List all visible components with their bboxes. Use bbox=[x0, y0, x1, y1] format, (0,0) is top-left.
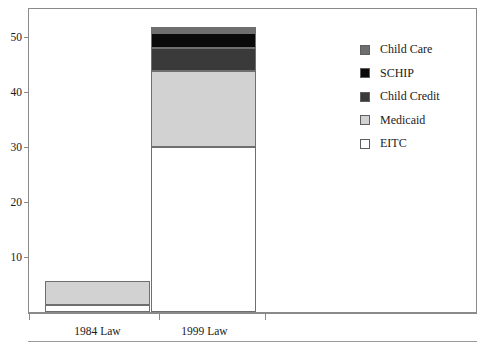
y-axis-tick-mark bbox=[24, 202, 29, 203]
y-axis-tick-mark bbox=[24, 257, 29, 258]
chart-figure: 1020304050 1984 Law1999 Law Child CareSC… bbox=[0, 0, 486, 348]
legend-item[interactable]: EITC bbox=[360, 132, 440, 156]
bar-segment[interactable] bbox=[45, 305, 150, 312]
stacked-bar[interactable] bbox=[45, 281, 150, 312]
legend-swatch-icon bbox=[360, 115, 370, 125]
y-axis-tick-mark bbox=[24, 37, 29, 38]
y-axis-tick-label: 10 bbox=[11, 251, 23, 263]
legend-item[interactable]: Child Credit bbox=[360, 85, 440, 109]
legend-item-label: SCHIP bbox=[380, 66, 414, 81]
y-axis-tick-label: 30 bbox=[11, 141, 23, 153]
x-axis-line bbox=[28, 312, 477, 313]
y-axis-tick-mark bbox=[24, 92, 29, 93]
x-axis-category-separator bbox=[29, 313, 30, 320]
legend-swatch-icon bbox=[360, 68, 370, 78]
legend-item-label: Child Credit bbox=[380, 89, 440, 104]
legend-item[interactable]: Medicaid bbox=[360, 109, 440, 133]
y-axis-tick-label: 40 bbox=[11, 86, 23, 98]
y-axis-tick-mark bbox=[24, 147, 29, 148]
bar-segment[interactable] bbox=[151, 71, 256, 147]
legend-item[interactable]: SCHIP bbox=[360, 62, 440, 86]
bar-segment[interactable] bbox=[151, 147, 256, 312]
x-axis-category-label: 1984 Law bbox=[74, 325, 120, 337]
x-axis-category-separator bbox=[265, 313, 266, 320]
bar-segment[interactable] bbox=[45, 281, 150, 305]
y-axis-tick-label: 20 bbox=[11, 196, 23, 208]
legend-item[interactable]: Child Care bbox=[360, 38, 440, 62]
bar-segment[interactable] bbox=[151, 48, 256, 71]
bar-segment[interactable] bbox=[151, 27, 256, 33]
x-axis-category-label: 1999 Law bbox=[181, 325, 227, 337]
y-axis-line bbox=[28, 9, 29, 313]
legend-item-label: EITC bbox=[380, 136, 407, 151]
legend-swatch-icon bbox=[360, 92, 370, 102]
legend-swatch-icon bbox=[360, 45, 370, 55]
bar-segment[interactable] bbox=[151, 33, 256, 48]
legend-item-label: Child Care bbox=[380, 42, 432, 57]
legend-swatch-icon bbox=[360, 139, 370, 149]
figure-bottom-rule bbox=[28, 341, 477, 342]
chart-legend: Child CareSCHIPChild CreditMedicaidEITC bbox=[360, 38, 440, 156]
stacked-bar[interactable] bbox=[151, 27, 256, 312]
y-axis-tick-label: 50 bbox=[11, 31, 23, 43]
x-axis-category-separator bbox=[159, 313, 160, 320]
legend-item-label: Medicaid bbox=[380, 113, 425, 128]
